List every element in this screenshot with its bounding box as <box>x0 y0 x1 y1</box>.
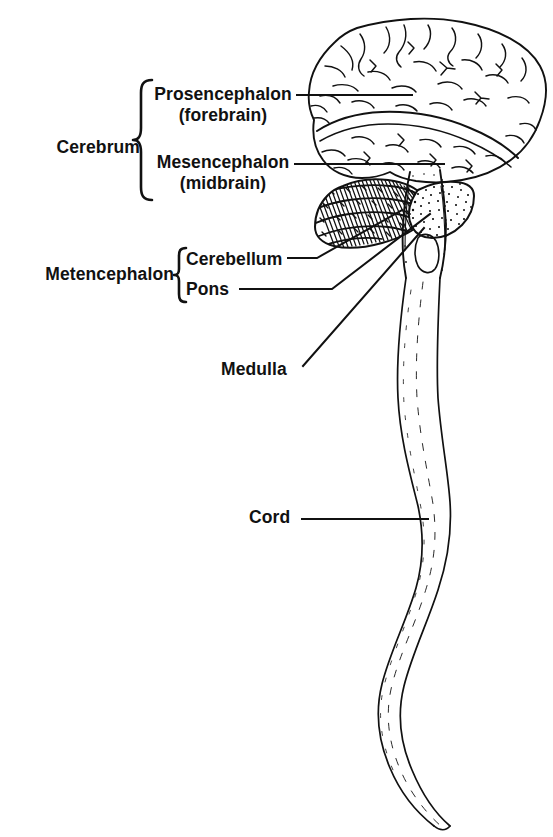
label-prosencephalon: Prosencephalon <box>148 84 298 105</box>
label-mesencephalon-alt: (midbrain) <box>148 173 298 194</box>
label-cerebrum: Cerebrum <box>36 137 140 158</box>
label-cord: Cord <box>249 507 290 528</box>
olive-nucleus <box>415 234 439 272</box>
label-cerebellum: Cerebellum <box>186 249 282 270</box>
cerebrum-illustration <box>309 19 546 183</box>
label-mesencephalon: Mesencephalon <box>148 152 298 173</box>
spinal-cord-center-line <box>388 282 442 827</box>
label-medulla: Medulla <box>221 359 287 380</box>
spinal-cord-right-edge <box>400 278 450 826</box>
label-prosencephalon-alt: (forebrain) <box>148 105 298 126</box>
cerebrum-sulci <box>311 25 536 174</box>
label-metencephalon: Metencephalon <box>24 264 174 285</box>
cerebrum-outline <box>309 19 546 183</box>
spinal-cord-tip <box>434 826 450 830</box>
label-mesencephalon-group: Mesencephalon (midbrain) <box>148 152 298 195</box>
spinal-cord-left-edge <box>378 278 434 826</box>
spinal-cord-illustration <box>378 278 450 830</box>
label-pons: Pons <box>186 279 229 300</box>
label-prosencephalon-group: Prosencephalon (forebrain) <box>148 84 298 127</box>
leader-medulla <box>303 228 424 366</box>
brace-metencephalon <box>174 248 186 302</box>
